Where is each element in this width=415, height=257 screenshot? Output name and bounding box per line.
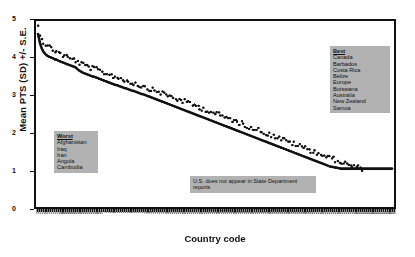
y-tick-label: 1 [0, 167, 16, 174]
y-axis-title: Mean PTS (SD) +/- S.E. [17, 0, 28, 180]
legend-worst-countries: Worst Afghanistan Iraq Iran Angola Cambo… [54, 131, 98, 173]
legend-best-item: Samoa [333, 105, 387, 111]
y-tick-mark [30, 209, 34, 210]
x-axis-title: Country code [34, 233, 396, 244]
annotation-us-note-text: U.S. does not appear in State Department… [193, 178, 297, 190]
y-tick-mark [30, 19, 34, 20]
annotation-us-note: U.S. does not appear in State Department… [190, 176, 316, 193]
y-tick-label: 0 [0, 205, 16, 212]
x-tick: 698 [393, 210, 395, 232]
plot-area: Best Canada Barbados Costa Rica Belize E… [34, 19, 396, 209]
chart-figure: Best Canada Barbados Costa Rica Belize E… [0, 0, 415, 257]
y-tick-mark [30, 95, 34, 96]
x-axis-ticks: 7007107137317327407507707717757807908008… [36, 210, 394, 232]
y-tick-mark [30, 133, 34, 134]
y-tick-mark [30, 57, 34, 58]
x-tick-label: 698 [394, 208, 398, 214]
y-tick-label: 2 [0, 129, 16, 136]
legend-best-countries: Best Canada Barbados Costa Rica Belize E… [330, 46, 390, 113]
y-tick-label: 3 [0, 91, 16, 98]
y-tick-label: 4 [0, 53, 16, 60]
legend-worst-item: Cambodia [57, 164, 95, 170]
y-tick-label: 5 [0, 15, 16, 22]
y-tick-mark [30, 171, 34, 172]
